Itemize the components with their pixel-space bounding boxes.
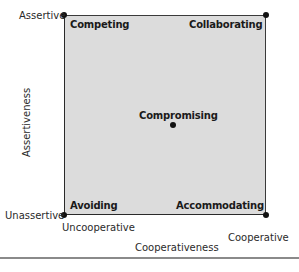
x-axis-title: Cooperativeness	[135, 242, 219, 253]
corner-dot-top-right-icon	[263, 12, 269, 18]
y-axis-bottom-label: Unassertive	[5, 210, 64, 221]
center-dot-icon	[170, 122, 176, 128]
quadrant-accommodating: Accommodating	[176, 200, 264, 211]
quadrant-collaborating: Collaborating	[189, 19, 262, 30]
bottom-divider	[0, 257, 299, 259]
quadrant-competing: Competing	[70, 19, 129, 30]
quadrant-compromising: Compromising	[139, 110, 218, 121]
y-axis-title: Assertiveness	[21, 83, 32, 163]
corner-dot-bottom-right-icon	[263, 212, 269, 218]
x-axis-left-label: Uncooperative	[62, 222, 135, 233]
x-axis-right-label: Cooperative	[228, 232, 289, 243]
quadrant-avoiding: Avoiding	[70, 200, 117, 211]
y-axis-top-label: Assertive	[19, 10, 65, 21]
